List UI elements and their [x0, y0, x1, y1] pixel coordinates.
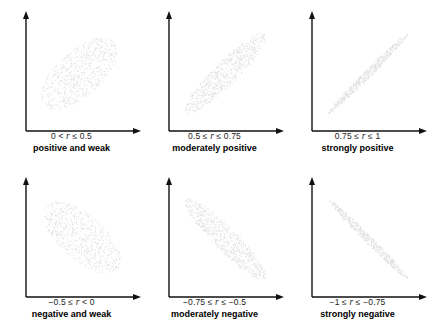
caption-negative-weak: −0.5 ≤ r < 0 negative and weak — [0, 297, 143, 319]
range-label-strongly-negative: −1 ≤ r ≤ −0.75 — [286, 297, 429, 307]
points-group — [185, 33, 266, 114]
caption-positive-weak: 0 < r ≤ 0.5 positive and weak — [0, 131, 143, 153]
panel-moderately-negative: −0.75 ≤ r ≤ −0.5 moderately negative — [143, 166, 286, 332]
description-negative-weak: negative and weak — [0, 310, 143, 320]
description-strongly-negative: strongly negative — [286, 310, 429, 320]
caption-strongly-negative: −1 ≤ r ≤ −0.75 strongly negative — [286, 297, 429, 319]
panel-strongly-negative: −1 ≤ r ≤ −0.75 strongly negative — [286, 166, 429, 332]
description-positive-weak: positive and weak — [0, 144, 143, 154]
panel-positive-weak: 0 < r ≤ 0.5 positive and weak — [0, 0, 143, 166]
range-label-strongly-positive: 0.75 ≤ r ≤ 1 — [286, 131, 429, 141]
description-strongly-positive: strongly positive — [286, 144, 429, 154]
panel-grid: 0 < r ≤ 0.5 positive and weak 0.5 ≤ r ≤ … — [0, 0, 429, 332]
scatterplot-positive-weak — [14, 8, 142, 134]
scatterplot-strongly-negative — [300, 174, 428, 300]
plot-area-strongly-positive — [300, 8, 428, 134]
plot-area-moderately-positive — [157, 8, 285, 134]
panel-negative-weak: −0.5 ≤ r < 0 negative and weak — [0, 166, 143, 332]
caption-moderately-positive: 0.5 ≤ r ≤ 0.75 moderately positive — [143, 131, 286, 153]
points-group — [41, 38, 117, 109]
scatterplot-strongly-positive — [300, 8, 428, 134]
plot-area-strongly-negative — [300, 174, 428, 300]
range-label-negative-weak: −0.5 ≤ r < 0 — [0, 297, 143, 307]
description-moderately-negative: moderately negative — [143, 310, 286, 320]
plot-area-positive-weak — [14, 8, 142, 134]
panel-strongly-positive: 0.75 ≤ r ≤ 1 strongly positive — [286, 0, 429, 166]
axes-group — [309, 177, 427, 300]
correlation-scatterplot-figure: 0 < r ≤ 0.5 positive and weak 0.5 ≤ r ≤ … — [0, 0, 429, 332]
scatterplot-moderately-negative — [157, 174, 285, 300]
description-moderately-positive: moderately positive — [143, 144, 286, 154]
scatterplot-moderately-positive — [157, 8, 285, 134]
range-label-positive-weak: 0 < r ≤ 0.5 — [0, 131, 143, 141]
caption-moderately-negative: −0.75 ≤ r ≤ −0.5 moderately negative — [143, 297, 286, 319]
points-group — [329, 200, 408, 279]
plot-area-negative-weak — [14, 174, 142, 300]
plot-area-moderately-negative — [157, 174, 285, 300]
panel-moderately-positive: 0.5 ≤ r ≤ 0.75 moderately positive — [143, 0, 286, 166]
range-label-moderately-positive: 0.5 ≤ r ≤ 0.75 — [143, 131, 286, 141]
caption-strongly-positive: 0.75 ≤ r ≤ 1 strongly positive — [286, 131, 429, 153]
points-group — [45, 201, 121, 273]
scatterplot-negative-weak — [14, 174, 142, 300]
points-group — [185, 198, 265, 279]
points-group — [328, 33, 408, 113]
range-label-moderately-negative: −0.75 ≤ r ≤ −0.5 — [143, 297, 286, 307]
